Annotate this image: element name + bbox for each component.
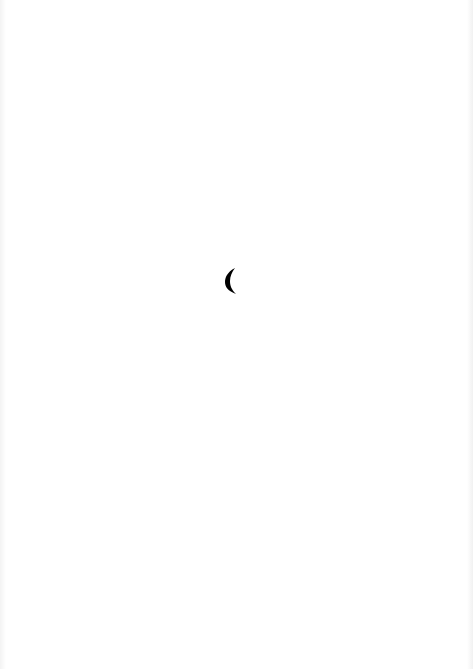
- crescent-parenthesis-icon: [224, 267, 238, 295]
- page-edge-right: [467, 0, 473, 669]
- page-edge-left: [0, 0, 6, 669]
- document-page: [0, 0, 473, 669]
